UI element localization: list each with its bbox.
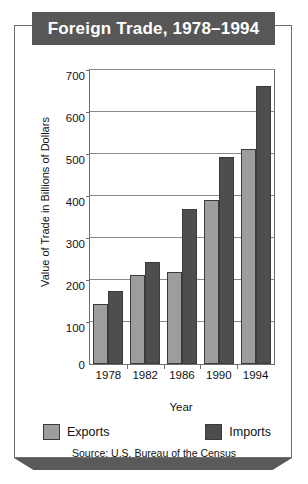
plot-area: 100200300400500600700 0 1978198219861990… — [89, 69, 275, 365]
x-axis-title: Year — [89, 401, 273, 413]
bar-group-1994 — [241, 70, 271, 364]
bar-group-1982 — [130, 70, 160, 364]
bar-imports-1990 — [219, 157, 234, 364]
bar-group-1986 — [167, 70, 197, 364]
bar-imports-1994 — [256, 86, 271, 364]
chart-title-banner: Foreign Trade, 1978–1994 — [32, 12, 275, 45]
y-axis-zero-label: 0 — [79, 359, 85, 371]
bar-exports-1994 — [241, 149, 256, 364]
bar-group-1990 — [204, 70, 234, 364]
bar-exports-1986 — [167, 272, 182, 364]
legend-item-exports: Exports — [43, 424, 109, 440]
x-axis-tick-label-1990: 1990 — [201, 369, 237, 381]
chart-card: Value of Trade in Billions of Dollars 10… — [14, 25, 292, 458]
chart-area: Value of Trade in Billions of Dollars 10… — [15, 26, 293, 459]
bar-imports-1986 — [182, 209, 197, 364]
bar-exports-1982 — [130, 275, 145, 364]
x-axis-tick-label-1982: 1982 — [127, 369, 163, 381]
x-axis-tick-label-1978: 1978 — [90, 369, 126, 381]
x-axis-tick-labels: 19781982198619901994 — [90, 369, 274, 381]
bar-group-1978 — [93, 70, 123, 364]
bar-imports-1978 — [108, 291, 123, 365]
page-title: Foreign Trade, 1978–1994 — [48, 19, 260, 39]
source-note: Source: U.S. Bureau of the Census — [15, 447, 293, 459]
bar-imports-1982 — [145, 262, 160, 364]
legend-item-imports: Imports — [205, 424, 271, 440]
bar-series-container — [90, 70, 274, 364]
legend-label-exports: Exports — [67, 425, 109, 439]
bar-exports-1990 — [204, 200, 219, 364]
bar-exports-1978 — [93, 304, 108, 364]
x-axis-tick-label-1994: 1994 — [238, 369, 274, 381]
x-axis-tick-label-1986: 1986 — [164, 369, 200, 381]
legend-label-imports: Imports — [229, 425, 271, 439]
legend-swatch-exports-icon — [43, 424, 60, 440]
y-axis-title: Value of Trade in Billions of Dollars — [39, 86, 51, 318]
card-base-shadow — [14, 458, 292, 470]
legend-swatch-imports-icon — [205, 424, 222, 440]
chart-legend: Exports Imports — [43, 424, 271, 440]
